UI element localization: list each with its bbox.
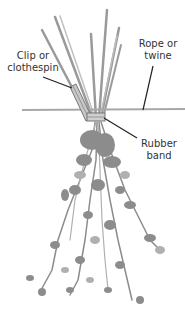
rubber-band [87, 113, 105, 121]
rope-leader [143, 66, 153, 110]
band-label: Rubber band [136, 138, 182, 162]
rope-label: Rope or twine [134, 38, 182, 62]
rope [22, 109, 185, 110]
clip-label: Clip or clothespin [2, 50, 64, 74]
